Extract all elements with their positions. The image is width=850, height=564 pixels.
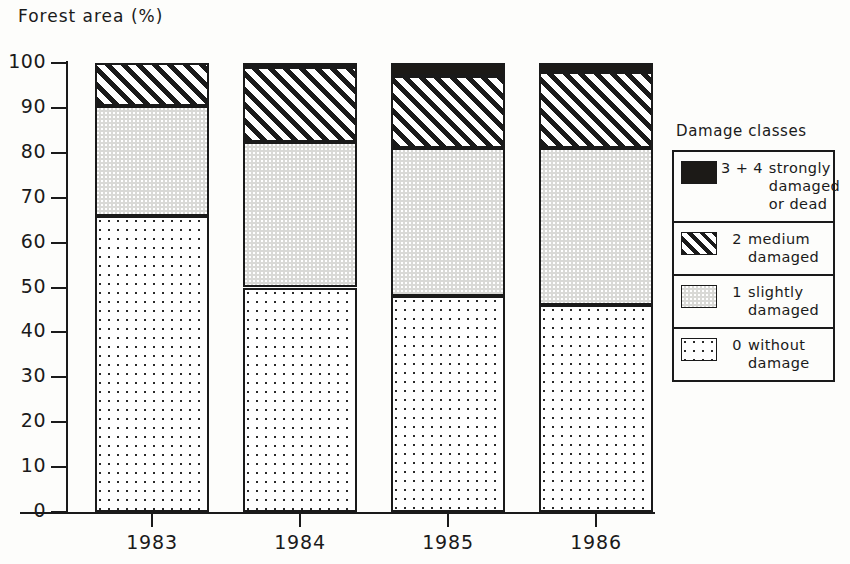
y-axis-tick [51,421,67,423]
legend-row: 0without damage [674,329,833,380]
legend-text: 0without damage [717,336,826,372]
x-axis-tick-label: 1983 [107,531,197,553]
forest-damage-stacked-bar-chart: Forest area (%) 0102030405060708090100 1… [0,0,850,564]
x-axis-tick-label: 1985 [403,531,493,553]
legend-class-code: 2 [732,230,742,266]
legend-class-code: 3 + 4 [721,159,763,213]
bar-segment-class0 [95,216,209,512]
legend: 3 + 4strongly damaged or dead2medium dam… [672,150,835,382]
bar-segment-class34 [243,63,357,67]
y-axis-tick-label: 80 [4,140,46,162]
y-axis-tick [51,62,67,64]
legend-box: 3 + 4strongly damaged or dead2medium dam… [672,150,835,382]
y-axis-tick-label: 60 [4,230,46,252]
y-axis-tick [51,242,67,244]
bar-segment-class0 [391,296,505,512]
bar-segment-class34 [391,63,505,76]
legend-row: 1slightly damaged [674,276,833,329]
y-axis-tick-label: 30 [4,364,46,386]
x-axis-tick [299,514,301,527]
bar-segment-class2 [539,72,653,148]
legend-title: Damage classes [676,122,807,140]
y-axis-tick [51,466,67,468]
bar-segment-class2 [243,67,357,141]
y-axis-tick [51,376,67,378]
x-axis-tick-label: 1986 [551,531,641,553]
bar-segment-class34 [539,63,653,72]
y-axis-tick-label: 20 [4,409,46,431]
y-axis-tick [51,287,67,289]
legend-text: 3 + 4strongly damaged or dead [717,159,847,213]
legend-class-description: slightly damaged [748,283,826,319]
bar-1986 [539,63,653,512]
y-axis-tick-label: 100 [4,50,46,72]
legend-class-description: medium damaged [748,230,826,266]
legend-class-description: without damage [748,336,826,372]
bar-1985 [391,63,505,512]
bar-segment-class2 [391,76,505,148]
bar-segment-class1 [539,148,653,305]
legend-text: 2medium damaged [717,230,826,266]
y-axis-tick-label: 50 [4,275,46,297]
y-axis-tick [51,107,67,109]
y-axis-tick-label: 0 [4,499,46,521]
legend-text: 1slightly damaged [717,283,826,319]
x-axis-line [20,512,655,514]
legend-row: 2medium damaged [674,223,833,276]
legend-class-code: 1 [732,283,742,319]
x-axis-tick-label: 1984 [255,531,345,553]
y-axis-tick [51,511,67,513]
bar-segment-class1 [391,148,505,296]
y-axis-tick [51,197,67,199]
legend-class-description: strongly damaged or dead [769,159,847,213]
bar-1983 [95,63,209,512]
legend-swatch-solid-black [681,161,717,184]
y-axis-tick-label: 70 [4,185,46,207]
y-axis-tick-label: 90 [4,95,46,117]
legend-class-code: 0 [732,336,742,372]
y-axis-tick-label: 40 [4,319,46,341]
bar-segment-class2 [95,63,209,106]
x-axis-tick [151,514,153,527]
chart-title: Forest area (%) [18,6,163,26]
y-axis-tick [51,152,67,154]
legend-swatch-diagonal-hatch [681,232,717,255]
legend-swatch-light-grey [681,285,717,308]
legend-row: 3 + 4strongly damaged or dead [674,152,833,223]
y-axis-tick [51,331,67,333]
bar-1984 [243,63,357,512]
x-axis-tick [595,514,597,527]
bar-segment-class1 [95,106,209,216]
bar-segment-class0 [539,305,653,512]
plot-area [66,63,640,512]
bar-segment-class1 [243,142,357,288]
legend-swatch-sparse-dots [681,338,717,361]
bar-segment-class0 [243,288,357,513]
y-axis-tick-label: 10 [4,454,46,476]
x-axis-tick [447,514,449,527]
